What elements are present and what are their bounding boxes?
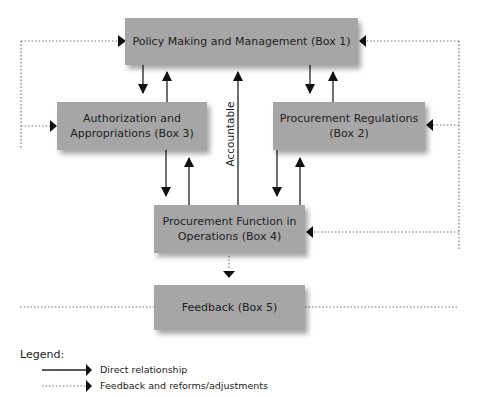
box3-label-line1: Authorization and [83,111,181,126]
box4-label-line1: Procurement Function in [162,214,296,229]
legend-title: Legend: [20,348,64,361]
box2-label-line1: Procurement Regulations [280,111,418,126]
box-authorization: Authorization and Appropriations (Box 3) [57,102,207,150]
box4-label-line2: Operations (Box 4) [178,229,282,244]
legend-dotted-label: Feedback and reforms/adjustments [100,380,268,391]
box-procurement-regulations: Procurement Regulations (Box 2) [273,102,425,150]
box-policy-making: Policy Making and Management (Box 1) [125,18,358,65]
box1-label: Policy Making and Management (Box 1) [133,34,351,49]
box5-label: Feedback (Box 5) [182,300,277,315]
box-procurement-function: Procurement Function in Operations (Box … [154,205,305,253]
accountable-label: Accountable [224,99,236,169]
box2-label-line2: (Box 2) [329,126,369,141]
box3-label-line2: Appropriations (Box 3) [70,126,194,141]
legend-solid-label: Direct relationship [100,364,187,375]
box-feedback: Feedback (Box 5) [154,285,305,330]
